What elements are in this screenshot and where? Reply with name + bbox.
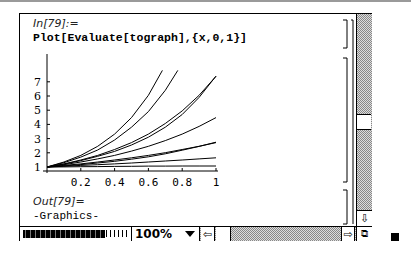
ruler-ticks — [106, 230, 128, 237]
notebook-window: In[79]:= Plot[Evaluate[tograph],{x,0,1}]… — [19, 13, 372, 241]
cursor-square — [391, 233, 399, 241]
svg-text:0.8: 0.8 — [172, 176, 192, 189]
svg-text:7: 7 — [34, 76, 41, 89]
svg-text:0.6: 0.6 — [138, 176, 158, 189]
zoom-dropdown[interactable]: 100% — [132, 227, 200, 241]
scroll-left-arrow-icon[interactable]: ⇦ — [201, 227, 215, 241]
cell-brackets[interactable] — [338, 14, 356, 226]
resize-box-icon[interactable]: ⧉ — [356, 226, 372, 241]
zoom-level: 100% — [135, 227, 172, 241]
svg-text:4: 4 — [34, 118, 41, 131]
input-cell[interactable]: Plot[Evaluate[tograph],{x,0,1}] — [33, 31, 247, 44]
svg-text:5: 5 — [34, 104, 41, 117]
input-label: In[79]:= — [33, 17, 79, 30]
dropdown-arrow-icon — [185, 231, 195, 237]
svg-text:3: 3 — [34, 133, 41, 146]
ruler-fill — [23, 230, 105, 238]
svg-text:6: 6 — [34, 90, 41, 103]
magnification-ruler[interactable] — [20, 227, 132, 241]
svg-text:2: 2 — [34, 147, 41, 160]
svg-text:0.2: 0.2 — [71, 176, 91, 189]
horizontal-scrollbar[interactable]: 100% ⇦ ⇨ — [20, 226, 371, 241]
vertical-scrollbar[interactable]: ⇩ — [356, 14, 372, 226]
scroll-down-arrow-icon[interactable]: ⇩ — [357, 210, 372, 226]
top-edge — [0, 0, 411, 2]
scroll-right-arrow-icon[interactable]: ⇨ — [341, 227, 355, 241]
plot-graphic: 12345670.20.40.60.81 — [20, 51, 230, 196]
notebook-content[interactable]: In[79]:= Plot[Evaluate[tograph],{x,0,1}]… — [20, 14, 356, 226]
svg-text:0.4: 0.4 — [105, 176, 125, 189]
svg-text:1: 1 — [34, 161, 41, 174]
vertical-scroll-thumb[interactable] — [357, 114, 371, 130]
output-cell[interactable]: -Graphics- — [33, 210, 99, 222]
svg-text:1: 1 — [213, 176, 220, 189]
output-label: Out[79]= — [33, 195, 85, 208]
horizontal-scroll-thumb[interactable] — [216, 227, 231, 241]
